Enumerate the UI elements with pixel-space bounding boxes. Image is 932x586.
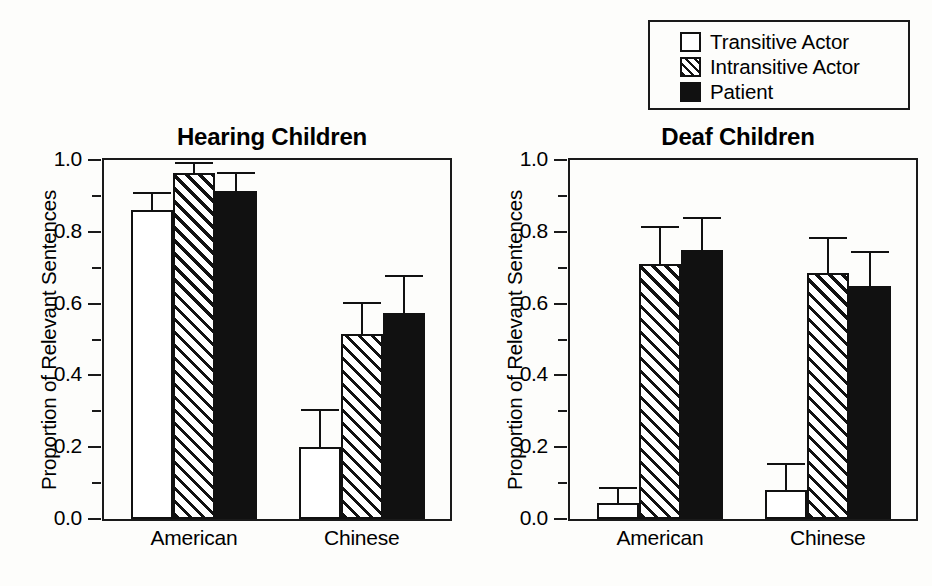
error-bar-cap — [599, 487, 637, 489]
plot-area: Proportion of Relevant Sentences 0.00.20… — [480, 158, 920, 586]
y-axis-tick-label: 0.6 — [488, 293, 548, 313]
bar — [299, 447, 341, 519]
bar — [639, 264, 681, 519]
bar — [849, 286, 891, 519]
chart-title: Deaf Children — [558, 120, 918, 158]
bar — [681, 250, 723, 519]
legend-item-intransitive-actor: Intransitive Actor — [680, 55, 908, 79]
chart-panel-hearing-children: Hearing Children Proportion of Relevant … — [14, 120, 454, 586]
error-bar — [701, 219, 703, 250]
error-bar — [785, 465, 787, 490]
y-axis-tick-major — [88, 446, 101, 448]
error-bar-cap — [683, 217, 721, 219]
error-bar-cap — [809, 237, 847, 239]
legend-label: Transitive Actor — [710, 32, 849, 52]
y-axis-tick-label: 0.6 — [22, 293, 82, 313]
y-axis-tick-minor — [92, 267, 101, 269]
error-bar — [659, 228, 661, 264]
error-bar — [235, 174, 237, 190]
error-bar — [319, 411, 321, 447]
legend: Transitive Actor Intransitive Actor Pati… — [648, 20, 910, 110]
y-axis-tick-minor — [92, 339, 101, 341]
error-bar — [869, 253, 871, 285]
y-axis-tick-major — [554, 374, 567, 376]
x-axis-tick-label: American — [124, 526, 264, 550]
filled-square-icon — [680, 82, 701, 102]
y-axis-tick-major — [88, 159, 101, 161]
y-axis-label: Proportion of Relevant Sentences — [37, 158, 61, 523]
error-bar — [403, 277, 405, 313]
bar — [215, 191, 257, 519]
y-axis-tick-label: 0.4 — [488, 364, 548, 384]
error-bar-cap — [641, 226, 679, 228]
x-axis-tick-label: Chinese — [758, 526, 898, 550]
error-bar — [151, 194, 153, 210]
error-bar-cap — [343, 302, 381, 304]
error-bar-cap — [301, 409, 339, 411]
y-axis-tick-label: 0.2 — [488, 436, 548, 456]
legend-item-patient: Patient — [680, 80, 908, 104]
y-axis-tick-minor — [558, 339, 567, 341]
bar — [807, 273, 849, 519]
x-axis-tick-label: Chinese — [292, 526, 432, 550]
y-axis-tick-label: 0.2 — [22, 436, 82, 456]
y-axis-tick-minor — [558, 410, 567, 412]
bar — [173, 173, 215, 519]
bar-series-group — [104, 160, 450, 519]
y-axis-tick-label: 0.8 — [22, 221, 82, 241]
legend-label: Patient — [710, 82, 773, 102]
error-bar-cap — [767, 463, 805, 465]
y-axis-tick-major — [554, 518, 567, 520]
y-axis-tick-label: 0.0 — [22, 508, 82, 528]
legend-label: Intransitive Actor — [710, 57, 860, 77]
y-axis-tick-major — [554, 446, 567, 448]
y-axis-tick-label: 0.8 — [488, 221, 548, 241]
y-axis-tick-major — [88, 518, 101, 520]
y-axis-tick-major — [88, 231, 101, 233]
hatched-square-icon — [680, 57, 701, 77]
open-square-icon — [680, 32, 701, 52]
error-bar-cap — [175, 162, 213, 164]
y-axis-tick-minor — [558, 482, 567, 484]
bar — [765, 490, 807, 519]
bar — [341, 334, 383, 519]
error-bar-cap — [851, 251, 889, 253]
y-axis-tick-major — [88, 303, 101, 305]
y-axis-tick-label: 0.4 — [22, 364, 82, 384]
bar — [131, 210, 173, 519]
error-bar — [827, 239, 829, 273]
y-axis-tick-minor — [92, 410, 101, 412]
y-axis-tick-major — [554, 159, 567, 161]
y-axis-tick-label: 1.0 — [22, 149, 82, 169]
chart-panel-deaf-children: Deaf Children Proportion of Relevant Sen… — [480, 120, 920, 586]
y-axis-tick-label: 0.0 — [488, 508, 548, 528]
y-axis-tick-label: 1.0 — [488, 149, 548, 169]
error-bar — [617, 489, 619, 503]
error-bar-cap — [217, 172, 255, 174]
y-axis-tick-major — [88, 374, 101, 376]
y-axis-tick-major — [554, 303, 567, 305]
error-bar-cap — [385, 275, 423, 277]
bar — [597, 503, 639, 519]
y-axis-tick-minor — [558, 195, 567, 197]
y-axis-tick-minor — [92, 482, 101, 484]
error-bar — [193, 164, 195, 173]
error-bar — [361, 304, 363, 335]
x-axis-tick-label: American — [590, 526, 730, 550]
y-axis-tick-minor — [92, 195, 101, 197]
bar — [383, 313, 425, 519]
y-axis-label: Proportion of Relevant Sentences — [503, 158, 527, 523]
legend-item-transitive-actor: Transitive Actor — [680, 30, 908, 54]
plot-area: Proportion of Relevant Sentences 0.00.20… — [14, 158, 454, 586]
bar-series-group — [570, 160, 916, 519]
y-axis-tick-major — [554, 231, 567, 233]
chart-title: Hearing Children — [92, 120, 452, 158]
y-axis-tick-minor — [558, 267, 567, 269]
error-bar-cap — [133, 192, 171, 194]
